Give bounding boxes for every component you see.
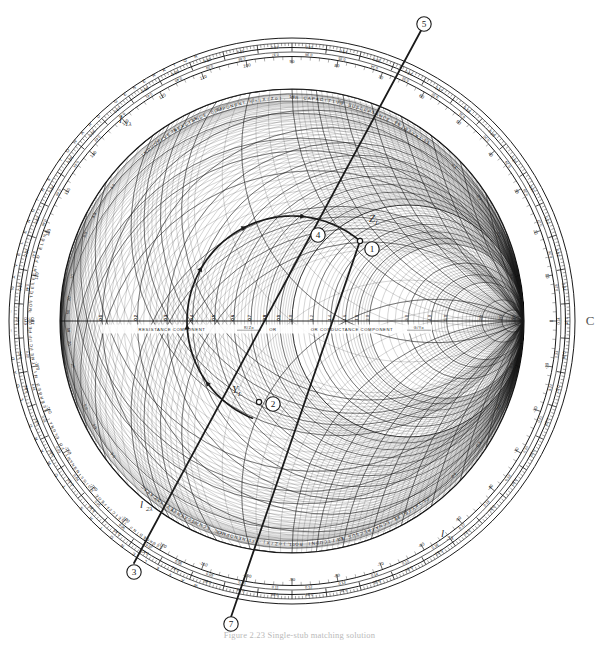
svg-text:E: E [30, 286, 35, 290]
svg-text:0.49: 0.49 [23, 317, 27, 324]
svg-text:-50: -50 [454, 515, 463, 523]
svg-text:A: A [11, 275, 16, 279]
svg-text:C: C [29, 290, 34, 294]
svg-text:0.36: 0.36 [305, 52, 312, 56]
svg-text:0.23: 0.23 [554, 248, 561, 258]
svg-text:V: V [13, 263, 18, 267]
svg-text:0.36: 0.36 [338, 587, 347, 594]
svg-text:80: 80 [334, 63, 340, 69]
svg-text:0.1: 0.1 [98, 314, 103, 320]
svg-text:I: I [130, 526, 133, 530]
svg-text:50: 50 [511, 315, 516, 320]
svg-text:C: C [29, 344, 34, 347]
svg-text:0.06: 0.06 [88, 128, 98, 138]
svg-text:←: ← [8, 309, 13, 313]
svg-text:L: L [237, 390, 242, 398]
svg-text:R: R [87, 122, 93, 128]
svg-text:0.13: 0.13 [305, 45, 314, 51]
svg-text:0.37: 0.37 [272, 52, 279, 56]
svg-text:0.3: 0.3 [163, 314, 168, 320]
svg-text:0.26: 0.26 [548, 251, 554, 259]
svg-text:l: l [441, 527, 444, 539]
svg-text:C: C [95, 493, 100, 498]
svg-text:70: 70 [378, 74, 385, 81]
svg-text:0.48: 0.48 [23, 384, 30, 394]
svg-text:L: L [30, 281, 35, 285]
marker-label-7: 7 [229, 619, 234, 629]
svg-text:E: E [30, 352, 35, 356]
svg-text:O: O [53, 472, 59, 478]
svg-text:0.19: 0.19 [487, 129, 497, 139]
svg-text:→: → [8, 329, 13, 333]
svg-text:120: 120 [158, 92, 167, 100]
svg-text:1.0: 1.0 [289, 542, 295, 547]
svg-text:0.49: 0.49 [17, 350, 23, 359]
svg-text:O: O [28, 322, 33, 325]
svg-text:1.2: 1.2 [249, 538, 255, 544]
svg-text:0.4: 0.4 [189, 314, 194, 320]
svg-text:0.7: 0.7 [247, 314, 252, 320]
svg-text:-20: -20 [532, 405, 539, 413]
marker-label-3: 3 [132, 567, 137, 577]
svg-text:N: N [26, 219, 32, 224]
svg-text:I: I [29, 349, 34, 351]
svg-text:1.4: 1.4 [327, 314, 332, 320]
svg-text:O: O [28, 304, 33, 307]
svg-text:3λ: 3λ [446, 534, 454, 542]
marker-label-2: 2 [271, 399, 276, 409]
svg-text:0.46: 0.46 [47, 448, 56, 458]
svg-text:D: D [95, 114, 101, 120]
svg-text:0.5: 0.5 [211, 314, 216, 320]
svg-text:1.0: 1.0 [289, 94, 295, 99]
svg-text:RESISTANCE COMPONENT: RESISTANCE COMPONENT [139, 327, 206, 332]
svg-text:R/Zo: R/Zo [244, 326, 254, 330]
marker-label-5: 5 [422, 19, 427, 29]
svg-text:2λ: 2λ [146, 505, 153, 513]
svg-text:-70: -70 [377, 560, 385, 567]
svg-text:0.1: 0.1 [508, 362, 514, 368]
svg-text:0.00: 0.00 [15, 316, 20, 325]
svg-text:0.18: 0.18 [483, 500, 491, 508]
svg-text:0.45: 0.45 [65, 477, 74, 487]
svg-text:10: 10 [478, 315, 483, 320]
svg-text:0.38: 0.38 [270, 592, 279, 598]
svg-text:110: 110 [199, 74, 208, 81]
svg-text:D: D [139, 532, 144, 537]
svg-text:1.2: 1.2 [248, 97, 254, 103]
svg-text:N: N [28, 308, 33, 311]
svg-text:30: 30 [513, 188, 520, 195]
svg-text:A: A [180, 578, 185, 584]
svg-text:N: N [30, 357, 35, 361]
svg-text:20: 20 [533, 229, 540, 236]
svg-text:I: I [33, 371, 38, 373]
svg-text:1λ: 1λ [125, 120, 132, 128]
svg-text:N: N [120, 543, 125, 549]
svg-text:OR: OR [269, 327, 276, 332]
svg-text:0.08: 0.08 [140, 85, 150, 94]
svg-text:-80: -80 [333, 573, 341, 579]
svg-text:G/Yo: G/Yo [414, 326, 424, 330]
svg-text:0.44: 0.44 [87, 504, 97, 514]
marker-label-4: 4 [316, 230, 321, 240]
svg-text:W: W [9, 285, 15, 291]
svg-text:0.21: 0.21 [528, 184, 537, 194]
svg-text:20: 20 [498, 315, 503, 320]
svg-text:0.37: 0.37 [304, 592, 313, 598]
svg-text:0.20: 0.20 [510, 155, 519, 165]
smith-chart-svg: 0.000.490.010.480.020.470.030.460.040.45… [0, 0, 599, 645]
svg-text:-30: -30 [512, 446, 520, 454]
svg-text:0.31: 0.31 [487, 504, 497, 514]
svg-text:-60: -60 [417, 541, 425, 549]
svg-text:O: O [59, 442, 64, 447]
svg-text:0: 0 [549, 320, 554, 323]
svg-text:O: O [35, 255, 41, 259]
svg-text:0.43: 0.43 [93, 134, 101, 142]
svg-text:0.30: 0.30 [483, 134, 491, 142]
svg-text:0.12: 0.12 [305, 585, 312, 589]
svg-text:0.12: 0.12 [271, 45, 280, 51]
svg-text:A: A [49, 421, 54, 425]
svg-text:0.01: 0.01 [17, 282, 23, 291]
svg-text:I: I [28, 300, 33, 302]
smith-chart-figure: 0.000.490.010.480.020.470.030.460.040.45… [0, 0, 599, 645]
svg-text:3.0: 3.0 [404, 314, 409, 320]
